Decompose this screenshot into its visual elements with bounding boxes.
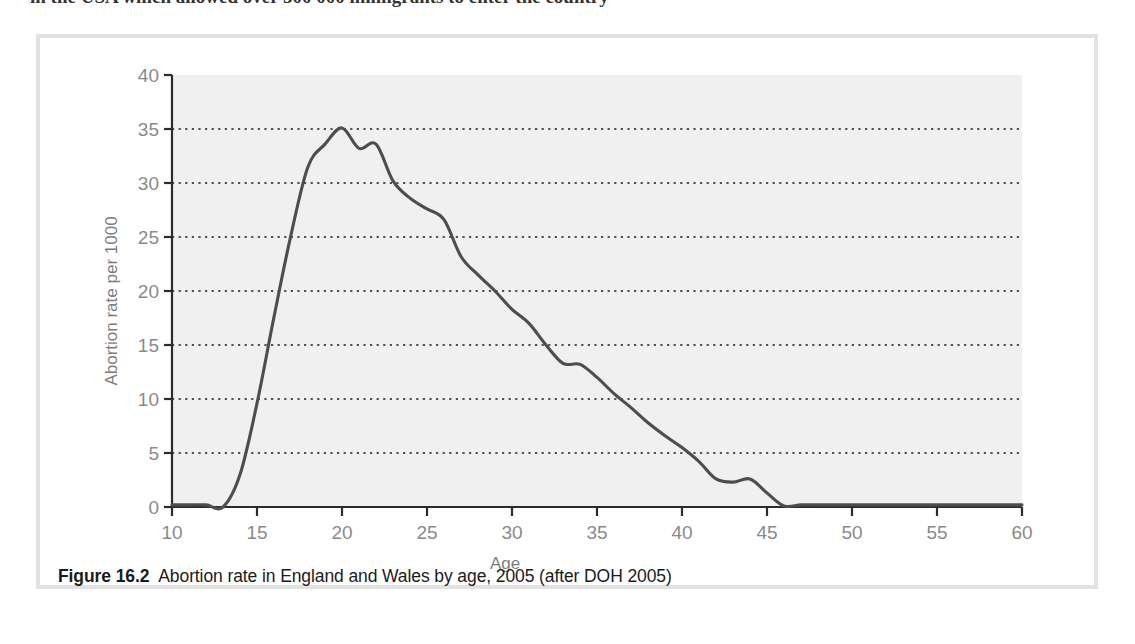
- y-tick-label: 40: [138, 65, 159, 86]
- x-tick-label: 30: [501, 522, 522, 543]
- y-tick-label: 5: [148, 443, 159, 464]
- x-tick-label: 15: [246, 522, 267, 543]
- x-tick-label: 50: [841, 522, 862, 543]
- y-axis-tick-labels: 0510152025303540: [138, 65, 159, 518]
- x-tick-label: 45: [756, 522, 777, 543]
- y-tick-label: 20: [138, 281, 159, 302]
- y-tick-label: 35: [138, 119, 159, 140]
- figure-caption-label: Figure 16.2: [58, 566, 149, 586]
- x-tick-label: 60: [1011, 522, 1032, 543]
- figure-caption: Figure 16.2Abortion rate in England and …: [58, 566, 1058, 587]
- y-tick-label: 30: [138, 173, 159, 194]
- y-tick-label: 15: [138, 335, 159, 356]
- y-tick-label: 0: [148, 497, 159, 518]
- x-tick-label: 10: [161, 522, 182, 543]
- x-tick-label: 35: [586, 522, 607, 543]
- y-axis-title: Abortion rate per 1000: [102, 216, 121, 385]
- x-tick-label: 20: [331, 522, 352, 543]
- x-tick-label: 25: [416, 522, 437, 543]
- chart-container: 1015202530354045505560 0510152025303540 …: [0, 0, 1135, 644]
- abortion-rate-line-chart: 1015202530354045505560 0510152025303540 …: [0, 0, 1135, 644]
- x-tick-label: 55: [926, 522, 947, 543]
- figure-caption-text: Abortion rate in England and Wales by ag…: [158, 566, 671, 586]
- x-axis-tick-labels: 1015202530354045505560: [161, 522, 1032, 543]
- y-tick-label: 10: [138, 389, 159, 410]
- x-tick-label: 40: [671, 522, 692, 543]
- y-tick-label: 25: [138, 227, 159, 248]
